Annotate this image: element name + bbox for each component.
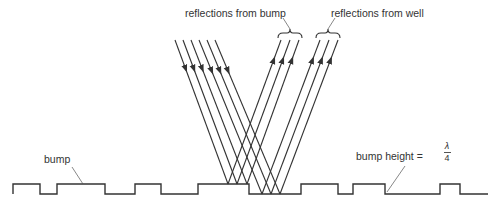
arrowhead-icon xyxy=(273,60,274,63)
reflected-ray xyxy=(271,40,329,194)
leader-bump xyxy=(72,167,83,184)
arrowhead-icon xyxy=(320,60,321,63)
incoming-ray xyxy=(175,40,228,184)
diffraction-diagram xyxy=(0,0,497,206)
label-reflections-from-well: reflections from well xyxy=(331,8,424,19)
pit-surface-profile xyxy=(13,184,488,194)
arrowhead-icon xyxy=(291,60,292,63)
fraction-numerator: λ xyxy=(441,142,453,151)
label-reflections-from-bump: reflections from bump xyxy=(185,8,286,19)
incoming-rays xyxy=(175,40,280,194)
label-bump-height: bump height = xyxy=(356,151,423,162)
arrowhead-icon xyxy=(185,66,186,69)
arrowhead-icon xyxy=(201,66,202,69)
arrowhead-icon xyxy=(311,60,312,63)
incoming-ray xyxy=(191,40,247,184)
leader-bump-height xyxy=(387,166,405,192)
arrowhead-icon xyxy=(193,66,194,69)
arrowhead-icon xyxy=(210,68,211,71)
arrowhead-icon xyxy=(219,68,220,71)
leader-well-reflections xyxy=(328,18,335,29)
reflected-rays xyxy=(228,40,338,194)
fraction-lambda-over-4: λ 4 xyxy=(441,142,453,163)
leader-bump-reflections xyxy=(283,18,290,29)
brace-well-icon xyxy=(316,29,340,38)
arrowhead-icon xyxy=(329,60,330,63)
surface-profile-line xyxy=(13,184,488,194)
reflected-ray xyxy=(280,40,338,194)
brace-bump-icon xyxy=(278,29,302,38)
arrowhead-icon xyxy=(227,68,228,71)
label-bump: bump xyxy=(44,154,70,165)
fraction-denominator: 4 xyxy=(441,154,453,163)
arrowhead-icon xyxy=(282,60,283,63)
